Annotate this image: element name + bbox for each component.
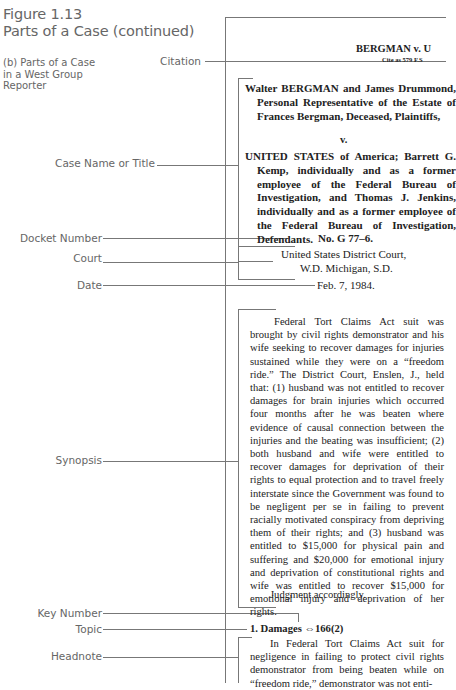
bracket-court-bot	[238, 279, 295, 280]
leader-topic	[103, 629, 247, 630]
decision-date: Feb. 7, 1984.	[317, 279, 375, 291]
figure-subtitle: (b) Parts of a Case in a West Group Repo…	[3, 57, 103, 92]
court-name-line2: W.D. Michigan, S.D.	[300, 262, 393, 274]
label-headnote: Headnote	[51, 650, 102, 662]
figure-number: Figure 1.13	[3, 6, 194, 23]
figure-caption: Parts of a Case (continued)	[3, 23, 194, 40]
bracket-court-v	[238, 246, 239, 279]
bracket-case-name-v	[238, 78, 239, 261]
leader-synopsis	[103, 461, 239, 462]
label-synopsis: Synopsis	[56, 454, 102, 466]
case-versus: v.	[340, 134, 347, 145]
label-topic: Topic	[76, 623, 102, 635]
docket-number: No. G 77–6.	[318, 232, 373, 244]
bracket-case-name-bot	[238, 261, 273, 262]
label-key-number: Key Number	[37, 607, 102, 619]
leader-headnote	[103, 657, 239, 658]
topic-key-number: 1. Damages ⇔166(2)	[250, 623, 343, 634]
cite-line: Cite as 579 F.S	[382, 56, 423, 63]
case-plaintiffs: Walter BERGMAN and James Drummond, Perso…	[245, 82, 456, 123]
running-head: BERGMAN v. U	[356, 43, 431, 54]
leader-date	[103, 285, 315, 286]
leader-case-name	[157, 165, 239, 166]
bracket-synopsis-top	[238, 309, 276, 310]
figure-title: Figure 1.13 Parts of a Case (continued)	[3, 6, 194, 40]
headnote-text: In Federal Tort Claims Act suit for negl…	[250, 637, 444, 690]
bracket-headnote-v	[238, 637, 239, 683]
court-name-line1: United States District Court,	[281, 248, 406, 260]
leader-court	[103, 262, 239, 263]
label-court: Court	[73, 252, 102, 264]
synopsis-text: Federal Tort Claims Act suit was brought…	[250, 315, 444, 619]
bracket-case-name-top	[238, 78, 253, 79]
label-citation: Citation	[160, 55, 201, 67]
label-docket-number: Docket Number	[20, 232, 102, 244]
page-frame-left	[225, 17, 226, 683]
label-case-name: Case Name or Title	[55, 157, 155, 169]
judgment-text: Judgment accordingly.	[270, 589, 366, 600]
page-frame-top	[225, 17, 446, 18]
label-date: Date	[77, 279, 102, 291]
bracket-synopsis-v	[238, 309, 239, 607]
